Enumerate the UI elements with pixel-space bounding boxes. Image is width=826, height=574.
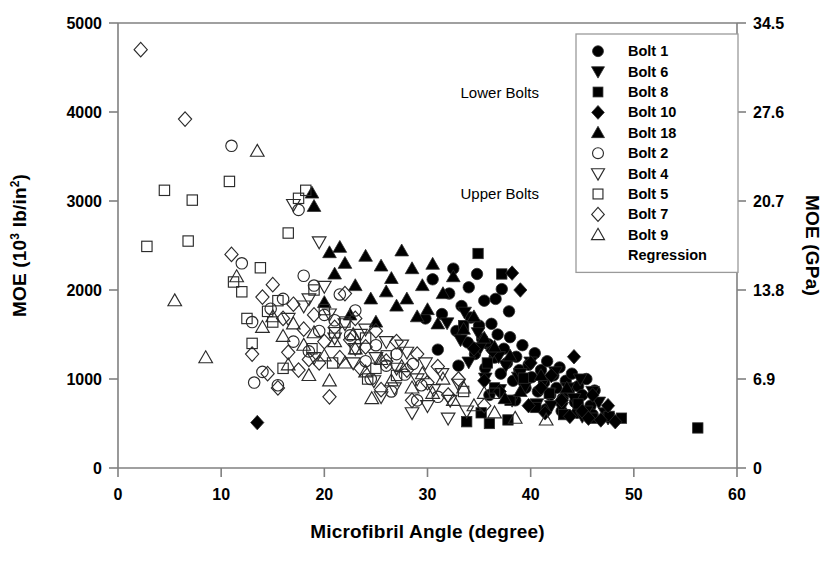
data-point-bolt-9 [488,406,502,418]
data-point-bolt-18 [307,200,321,212]
y-tick-label-right: 27.6 [753,104,784,121]
data-point-bolt-4 [405,408,419,420]
data-point-bolt-5 [237,287,247,297]
data-point-bolt-18 [395,244,409,256]
data-point-bolt-10 [514,283,527,298]
plot-canvas: 0102030405060Microfibril Angle (degree)0… [0,0,826,574]
data-point-bolt-18 [379,285,393,297]
legend-label-bolt-4[interactable]: Bolt 4 [628,166,668,182]
data-point-bolt-9 [405,381,419,393]
data-point-bolt-18 [364,292,378,304]
data-point-bolt-10 [505,266,518,281]
data-point-bolt-18 [348,279,362,291]
legend-label-bolt-5[interactable]: Bolt 5 [628,186,668,202]
data-point-bolt-8 [473,248,483,258]
data-point-bolt-5 [262,306,272,316]
data-point-bolt-8 [518,373,528,383]
data-point-bolt-7 [266,277,279,292]
data-point-bolt-7 [431,359,444,374]
y-tick-label-right: 13.8 [753,282,784,299]
data-point-bolt-7 [225,247,238,262]
data-point-bolt-18 [421,303,435,315]
data-point-bolt-1 [504,331,515,342]
y-tick-label-left: 3000 [66,193,102,210]
y-tick-label-left: 2000 [66,282,102,299]
data-point-bolt-1 [479,295,490,306]
data-point-bolt-5 [327,358,337,368]
data-point-bolt-2 [248,377,259,388]
data-point-bolt-9 [323,374,337,386]
data-point-bolt-18 [405,262,419,274]
x-tick-label: 10 [212,486,230,503]
data-point-bolt-1 [503,306,514,317]
data-point-bolt-18 [338,256,352,268]
legend-label-bolt-18[interactable]: Bolt 18 [628,125,676,141]
data-point-bolt-1 [432,344,443,355]
y-axis-title-left: MOE (103 lb/in2) [8,174,30,317]
data-point-bolt-4 [441,413,455,425]
data-point-bolt-18 [359,249,373,261]
data-point-bolt-1 [471,268,482,279]
data-point-bolt-8 [497,269,507,279]
y-tick-label-left: 5000 [66,15,102,32]
annotation-lower-bolts: Lower Bolts [461,84,539,101]
legend-marker-bolt-8 [593,87,603,97]
data-point-bolt-7 [178,112,191,127]
y-tick-label-right: 34.5 [753,15,784,32]
data-point-bolt-5 [283,228,293,238]
data-point-bolt-4 [388,383,402,395]
data-point-bolt-5 [159,185,169,195]
legend-label-bolt-7[interactable]: Bolt 7 [628,206,668,222]
data-point-bolt-18 [385,272,399,284]
legend-label-bolt-10[interactable]: Bolt 10 [628,104,676,120]
data-point-bolt-9 [199,351,213,363]
y-tick-label-right: 0 [753,460,762,477]
y-tick-label-right: 20.7 [753,193,784,210]
x-tick-label: 50 [625,486,643,503]
y-tick-label-left: 1000 [66,371,102,388]
legend-label-bolt-6[interactable]: Bolt 6 [628,64,668,80]
legend-label-bolt-2[interactable]: Bolt 2 [628,145,668,161]
data-point-bolt-18 [305,186,319,198]
data-point-bolt-1 [486,318,497,329]
data-point-bolt-4 [312,237,326,249]
data-point-bolt-5 [142,241,152,251]
y-tick-label-left: 0 [93,460,102,477]
data-point-bolt-5 [183,236,193,246]
x-tick-label: 40 [522,486,540,503]
data-point-bolt-9 [230,270,244,282]
legend-label-bolt-9[interactable]: Bolt 9 [628,227,668,243]
data-point-bolt-1 [492,329,503,340]
legend-label-bolt-1[interactable]: Bolt 1 [628,43,668,59]
data-point-bolt-7 [323,390,336,405]
data-point-bolt-18 [333,240,347,252]
data-point-bolt-7 [134,42,147,57]
data-point-bolt-7 [256,290,269,305]
data-point-bolt-18 [374,259,388,271]
data-point-bolt-5 [278,363,288,373]
legend-label-regression[interactable]: Regression [628,247,707,263]
x-tick-label: 60 [728,486,746,503]
x-tick-label: 30 [419,486,437,503]
data-point-bolt-5 [187,195,197,205]
x-tick-label: 0 [114,486,123,503]
x-axis-title: Microfibril Angle (degree) [310,521,545,542]
data-point-bolt-18 [400,292,414,304]
data-point-bolt-8 [482,358,492,368]
data-point-bolt-1 [427,274,438,285]
data-point-bolt-9 [168,294,182,306]
data-point-bolt-4 [460,406,474,418]
data-point-bolt-2 [236,258,247,269]
data-point-bolt-18 [328,267,342,279]
y-tick-label-left: 4000 [66,104,102,121]
data-point-bolt-9 [302,369,316,381]
y-axis-title-right: MOE (GPa) [802,195,823,296]
x-tick-label: 20 [315,486,333,503]
data-point-bolt-9 [250,144,264,156]
data-point-bolt-2 [370,339,381,350]
data-point-bolt-4 [419,358,433,370]
data-point-bolt-10 [251,415,264,430]
data-point-bolt-1 [490,293,501,304]
figure-scatter-plot: 0102030405060Microfibril Angle (degree)0… [0,0,826,574]
legend-label-bolt-8[interactable]: Bolt 8 [628,84,668,100]
